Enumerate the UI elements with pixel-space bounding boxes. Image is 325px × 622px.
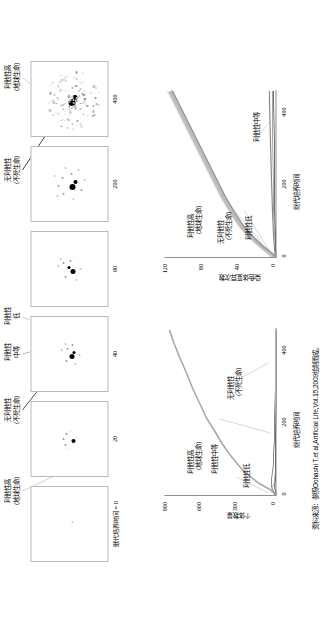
annotation-altruism-mid: 利他性 中等 — [2, 332, 20, 372]
chart-right-label-non-altruism: 无利他性 （不死生命） — [216, 208, 231, 244]
chart-right-label-altruism-high: 利他性高 （地球生命） — [186, 202, 201, 238]
chart-right-label-altruism-mid: 利他性中等 — [252, 112, 260, 142]
chart-left-callout-lines — [164, 327, 276, 495]
chart-left-ytick-900: 900 — [160, 502, 167, 528]
chart-right: 120 80 40 0 0 200 400 继代培养时间 染色体变异次数 利他性… — [160, 77, 310, 292]
chart-right-xtick-0: 0 — [279, 244, 286, 268]
chart-right-xtick-200: 200 — [279, 172, 286, 196]
scatter-panel-strip: 继代培养时间 = 0 20 40 — [30, 62, 118, 562]
annotation-altruism-high-right: 利他性高 （地球生命） — [2, 42, 20, 112]
chart-left-xaxis-title: 继代培养时间 — [291, 412, 300, 448]
chart-left-label-altruism-high: 利他性高 （地球生命） — [186, 438, 201, 474]
scatter-panel-3-caption: 80 — [110, 231, 117, 307]
scatter-panel-4-caption: 200 — [110, 146, 117, 222]
chart-right-xaxis-title: 继代培养时间 — [291, 174, 300, 210]
scatter-panel-0-caption: 继代培养时间 = 0 — [110, 486, 119, 562]
scatter-panel-2-caption: 40 — [110, 316, 117, 392]
scatter-panel-3 — [30, 231, 108, 307]
chart-right-ytick-0: 0 — [268, 264, 275, 290]
chart-left-plot-area — [164, 328, 276, 496]
annotation-altruism-low: 利他性 低 — [2, 298, 20, 334]
chart-left-ytick-600: 600 — [194, 502, 201, 528]
rotated-figure-wrapper: 利他性高 （地球生命） 无利他性 （不死生命） 利他性 中等 利他性 低 无利他… — [0, 0, 325, 622]
figure-page: 利他性高 （地球生命） 无利他性 （不死生命） 利他性 中等 利他性 低 无利他… — [0, 0, 325, 622]
chart-right-yaxis-title: 染色体变异次数 — [218, 273, 260, 282]
scatter-panel-0 — [30, 486, 108, 562]
scatter-panel-5-caption: 400 — [110, 61, 117, 137]
chart-right-label-altruism-low: 利他性低 — [244, 216, 252, 240]
chart-right-xtick-400: 400 — [279, 100, 286, 124]
chart-left-label-altruism-mid: 利他性中等 — [210, 444, 218, 474]
chart-left-yaxis-title: 个体数量 — [226, 511, 250, 520]
chart-left: 900 600 300 0 0 200 400 继代培养时间 个体数量 利他性高… — [160, 320, 310, 530]
chart-left-ytick-0: 0 — [268, 502, 275, 528]
chart-left-xtick-0: 0 — [279, 482, 286, 506]
chart-right-ytick-120: 120 — [160, 264, 167, 290]
chart-left-label-altruism-low: 利他性低 — [242, 464, 250, 488]
scatter-panel-1-caption: 20 — [110, 401, 117, 477]
chart-left-xtick-400: 400 — [279, 338, 286, 362]
source-note: 资料来源：参照Oohashi T.et al,Artificial Life,V… — [310, 344, 319, 530]
annotation-altruism-high-left: 利他性高 （地球生命） — [2, 456, 20, 526]
annotation-non-altruism-right: 无利他性 （不死生命） — [2, 134, 20, 206]
chart-left-label-non-altruism: 无利他性 （不死生命） — [226, 364, 241, 400]
annotation-non-altruism-left: 无利他性 （不死生命） — [2, 374, 20, 446]
chart-right-ytick-80: 80 — [196, 264, 203, 290]
scatter-panel-4 — [30, 146, 108, 222]
scatter-panel-5 — [30, 61, 108, 137]
scatter-panel-2 — [30, 316, 108, 392]
scatter-panel-1 — [30, 401, 108, 477]
chart-left-xtick-200: 200 — [279, 410, 286, 434]
